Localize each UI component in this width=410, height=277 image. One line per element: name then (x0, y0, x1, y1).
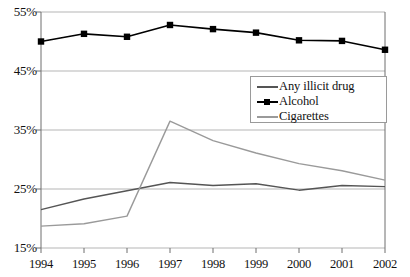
series-marker (167, 22, 173, 28)
x-axis-label: 1995 (61, 257, 107, 272)
y-axis-label: 55% (0, 4, 37, 20)
x-axis-label: 1994 (18, 257, 64, 272)
series-marker (38, 38, 44, 44)
chart-legend: Any illicit drug Alcohol Cigarettes (250, 76, 387, 123)
legend-swatch-line-marker-icon (255, 96, 279, 108)
line-chart: 15%25%35%45%55% 199419951996199719981999… (0, 0, 410, 277)
legend-label: Cigarettes (279, 109, 329, 124)
series-marker (382, 47, 388, 53)
x-axis-label: 2001 (319, 257, 365, 272)
series-marker (210, 26, 216, 32)
series-marker (124, 34, 130, 40)
legend-swatch-line-icon (255, 81, 279, 93)
legend-label: Any illicit drug (279, 79, 354, 94)
series-marker (81, 31, 87, 37)
series-line-2 (41, 121, 385, 226)
legend-label: Alcohol (279, 94, 319, 109)
x-axis-label: 2000 (276, 257, 322, 272)
series-marker (339, 38, 345, 44)
x-axis-label: 1996 (104, 257, 150, 272)
y-axis-label: 25% (0, 181, 37, 197)
series-marker (253, 29, 259, 35)
y-axis-label: 45% (0, 63, 37, 79)
plot-canvas (0, 0, 410, 277)
x-axis-label: 1997 (147, 257, 193, 272)
legend-swatch-line-icon (255, 111, 279, 123)
y-axis-label: 15% (0, 240, 37, 256)
x-axis-label: 1999 (233, 257, 279, 272)
series-marker (296, 37, 302, 43)
x-axis-label: 1998 (190, 257, 236, 272)
series-line-0 (41, 183, 385, 210)
y-axis-label: 35% (0, 122, 37, 138)
legend-item-alcohol: Alcohol (255, 94, 386, 109)
x-axis-label: 2002 (362, 257, 408, 272)
legend-item-any-illicit-drug: Any illicit drug (255, 79, 386, 94)
legend-item-cigarettes: Cigarettes (255, 109, 386, 124)
